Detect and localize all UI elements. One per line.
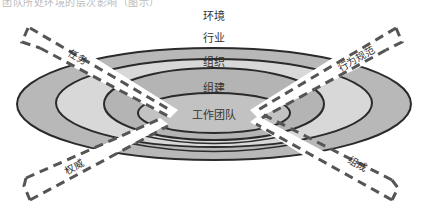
label-industry: 行业	[203, 32, 225, 45]
label-environment: 环境	[203, 9, 225, 23]
label-establishment: 组建	[203, 81, 225, 95]
team-environment-diagram: 环境 行业 组织 组建 工作团队 任务 行为规范 权威 组成	[0, 0, 428, 219]
label-organization: 组织	[203, 55, 225, 69]
label-work-team: 工作团队	[192, 108, 236, 122]
